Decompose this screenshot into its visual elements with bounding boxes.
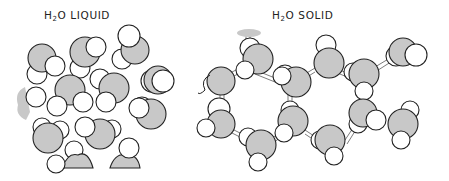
- liquid-panel: [17, 25, 174, 173]
- solid-panel: [197, 29, 427, 171]
- water-diagram: [0, 0, 449, 181]
